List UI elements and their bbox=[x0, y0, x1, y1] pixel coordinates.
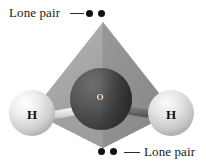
lone-pair-dot-bottom-1 bbox=[98, 148, 105, 155]
water-tetrahedron-figure: H O H Lone pair Lone pair bbox=[0, 0, 206, 167]
leader-line-top bbox=[70, 13, 84, 14]
atom-label-hydrogen-right: H bbox=[163, 108, 179, 121]
leader-line-bottom bbox=[124, 152, 140, 153]
atom-label-hydrogen-left: H bbox=[24, 108, 40, 121]
atom-label-oxygen: O bbox=[93, 93, 107, 102]
lone-pair-dot-top-1 bbox=[86, 10, 93, 17]
molecule-model bbox=[0, 0, 206, 167]
lone-pair-label-top: Lone pair bbox=[9, 6, 60, 19]
lone-pair-dot-bottom-2 bbox=[110, 148, 117, 155]
lone-pair-label-bottom: Lone pair bbox=[144, 145, 195, 158]
lone-pair-dot-top-2 bbox=[98, 10, 105, 17]
